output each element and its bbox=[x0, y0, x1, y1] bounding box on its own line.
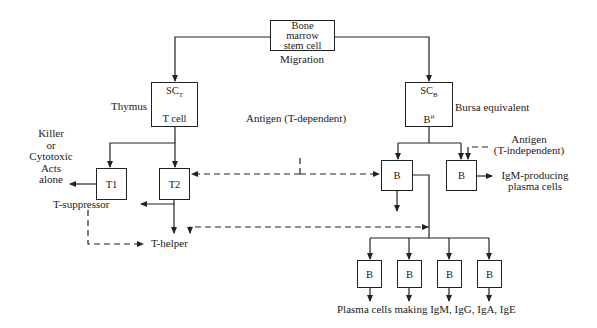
sct-box: SCT T cell bbox=[151, 82, 198, 127]
migration-label: Migration bbox=[280, 53, 324, 65]
t2-box: T2 bbox=[159, 168, 190, 200]
bursa-equivalent-label: Bursa equivalent bbox=[455, 101, 529, 113]
antigen-t-independent-label: Antigen (T-independent) bbox=[489, 134, 569, 156]
scb-top: SCB bbox=[420, 85, 438, 99]
bone-marrow-stem-cell-box: Bone marrow stem cell bbox=[270, 20, 335, 51]
b-box-ige: B bbox=[477, 260, 502, 288]
t-helper-label: T-helper bbox=[151, 237, 188, 249]
igm-producing-label: IgM-producing plasma cells bbox=[495, 170, 575, 192]
b-box-left: B bbox=[381, 160, 413, 191]
b-box-igm: B bbox=[357, 260, 382, 288]
sct-top: SCT bbox=[166, 85, 183, 99]
b-box-igg: B bbox=[397, 260, 422, 288]
t-cell-label: T cell bbox=[162, 113, 186, 124]
b-box-right: B bbox=[446, 160, 477, 191]
plasma-cells-caption: Plasma cells making IgM, IgG, IgA, IgE bbox=[337, 303, 516, 315]
killer-cytotoxic-label: Killer or Cytotoxic Acts alone bbox=[24, 128, 78, 186]
scb-box: SCB Bμ bbox=[405, 82, 453, 127]
thymus-label: Thymus bbox=[111, 100, 147, 112]
b-mu-label: Bμ bbox=[424, 112, 435, 125]
b-box-iga: B bbox=[437, 260, 462, 288]
antigen-t-dependent-label: Antigen (T-dependent) bbox=[246, 112, 346, 124]
t-suppressor-label: T-suppressor bbox=[53, 198, 109, 210]
immune-lineage-diagram: Bone marrow stem cell Migration SCT T ce… bbox=[0, 0, 597, 328]
stem-cell-line-3: stem cell bbox=[284, 41, 322, 51]
t1-box: T1 bbox=[96, 168, 127, 200]
